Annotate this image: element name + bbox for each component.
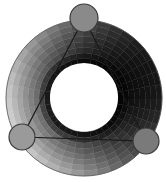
hue-swatch[interactable] xyxy=(73,37,84,43)
hue-swatch[interactable] xyxy=(76,137,84,143)
hue-swatch[interactable] xyxy=(84,48,93,54)
hue-swatch[interactable] xyxy=(23,87,29,98)
hue-swatch[interactable] xyxy=(84,153,95,159)
hue-swatch[interactable] xyxy=(84,42,94,48)
hue-swatch[interactable] xyxy=(145,98,151,110)
hue-swatch[interactable] xyxy=(139,87,145,98)
hue-swatch[interactable] xyxy=(23,98,29,109)
hue-swatch[interactable] xyxy=(75,142,84,148)
handle-left[interactable] xyxy=(9,124,35,150)
hue-swatch[interactable] xyxy=(28,98,34,108)
color-wheel-canvas[interactable] xyxy=(0,0,166,182)
hue-swatch[interactable] xyxy=(134,98,140,108)
hue-swatch[interactable] xyxy=(17,98,23,110)
hue-swatch[interactable] xyxy=(73,153,84,159)
color-wheel[interactable] xyxy=(0,0,166,182)
hue-swatch[interactable] xyxy=(74,42,84,48)
hue-swatch[interactable] xyxy=(74,148,84,154)
hue-swatch[interactable] xyxy=(134,88,140,98)
hue-swatch[interactable] xyxy=(77,131,84,137)
hue-swatch[interactable] xyxy=(76,53,84,59)
hue-swatch[interactable] xyxy=(145,86,151,98)
hue-swatch[interactable] xyxy=(84,37,95,43)
hue-swatch[interactable] xyxy=(72,159,84,165)
center-hole xyxy=(50,63,118,131)
hue-swatch[interactable] xyxy=(75,48,84,54)
hue-swatch[interactable] xyxy=(117,98,123,105)
hue-swatch[interactable] xyxy=(128,89,134,98)
handle-top[interactable] xyxy=(70,4,98,32)
hue-swatch[interactable] xyxy=(84,131,91,137)
hue-swatch[interactable] xyxy=(84,142,93,148)
hue-swatch[interactable] xyxy=(34,89,40,98)
hue-swatch[interactable] xyxy=(84,53,92,59)
hue-swatch[interactable] xyxy=(45,98,51,105)
hue-swatch[interactable] xyxy=(84,159,96,165)
hue-swatch[interactable] xyxy=(84,137,92,143)
hue-swatch[interactable] xyxy=(139,98,145,109)
handle-right[interactable] xyxy=(133,128,159,154)
hue-swatch[interactable] xyxy=(28,88,34,98)
hue-swatch[interactable] xyxy=(17,86,23,98)
hue-swatch[interactable] xyxy=(84,148,94,154)
hue-swatch[interactable] xyxy=(128,98,134,107)
